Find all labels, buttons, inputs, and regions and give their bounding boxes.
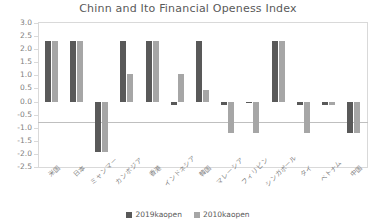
legend-label: 2019kaopen [135, 210, 182, 219]
x-axis-label-cell: インドネシア [165, 169, 190, 205]
y-axis-tick-label: -1.5 [0, 137, 32, 145]
x-axis-label-cell: 韓国 [190, 169, 215, 205]
chart-legend: 2019kaopen2010kaopen [0, 210, 376, 219]
bar[interactable] [329, 102, 335, 105]
bar[interactable] [272, 41, 278, 102]
bar[interactable] [221, 102, 227, 105]
legend-swatch-icon [194, 212, 200, 218]
bar[interactable] [354, 102, 360, 134]
legend-item[interactable]: 2019kaopen [126, 210, 182, 219]
bar[interactable] [52, 41, 58, 102]
bar-group [342, 23, 367, 167]
x-axis-label-cell: ベトナム [317, 169, 342, 205]
y-axis-tick-label: 3.0 [0, 19, 32, 27]
bar[interactable] [322, 102, 328, 105]
x-axis-label-cell: 米国 [39, 169, 64, 205]
bar-group [39, 23, 64, 167]
y-axis-tick-label: -0.5 [0, 111, 32, 119]
y-axis-tick-label: -2.0 [0, 150, 32, 158]
chart-container: Chinn and Ito Financial Openess Index 3.… [0, 0, 376, 222]
bar[interactable] [45, 41, 51, 102]
bar[interactable] [203, 90, 209, 101]
y-axis-tick-label: 1.0 [0, 72, 32, 80]
y-axis-tick-label: -1.0 [0, 124, 32, 132]
bar-group [216, 23, 241, 167]
x-axis-labels: 米国日本ミャンマーカンボジア香港インドネシア韓国マレーシアフィリピンシンガポール… [39, 169, 367, 205]
legend-label: 2010kaopen [203, 210, 250, 219]
bar[interactable] [171, 102, 177, 105]
x-axis-label-cell: シンガポール [266, 169, 291, 205]
legend-swatch-icon [126, 212, 132, 218]
bar[interactable] [70, 41, 76, 102]
legend-item[interactable]: 2010kaopen [194, 210, 250, 219]
y-axis: 3.02.52.01.51.00.50.0-0.5-1.0-1.5-2.0-2.… [0, 22, 38, 168]
bar-group [291, 23, 316, 167]
y-axis-tick-label: 2.0 [0, 45, 32, 53]
bar-group [140, 23, 165, 167]
x-axis-label-cell: 中国 [342, 169, 367, 205]
bar[interactable] [178, 74, 184, 101]
x-axis-label-cell: マレーシア [216, 169, 241, 205]
bar-group [115, 23, 140, 167]
bar[interactable] [297, 102, 303, 105]
y-axis-tick-label: -2.5 [0, 163, 32, 171]
bar-group [89, 23, 114, 167]
x-axis-label-cell: フィリピン [241, 169, 266, 205]
y-axis-tick-label: 0.5 [0, 85, 32, 93]
bar[interactable] [279, 41, 285, 102]
x-axis-label-cell: タイ [291, 169, 316, 205]
bar-group [266, 23, 291, 167]
x-axis-label-cell: カンボジア [115, 169, 140, 205]
bar[interactable] [102, 102, 108, 152]
bar[interactable] [253, 102, 259, 134]
bar[interactable] [146, 41, 152, 102]
bar[interactable] [196, 41, 202, 102]
bar[interactable] [153, 41, 159, 102]
x-axis-label-cell: ミャンマー [89, 169, 114, 205]
chart-title: Chinn and Ito Financial Openess Index [0, 2, 376, 15]
bar[interactable] [304, 102, 310, 134]
x-axis-label-cell: 香港 [140, 169, 165, 205]
y-axis-tick-label: 1.5 [0, 59, 32, 67]
bar[interactable] [246, 102, 252, 103]
bar-group [317, 23, 342, 167]
bar[interactable] [228, 102, 234, 134]
bar[interactable] [95, 102, 101, 152]
bar-group [64, 23, 89, 167]
y-axis-tick-label: 2.5 [0, 32, 32, 40]
x-axis-label-cell: 日本 [64, 169, 89, 205]
bar[interactable] [77, 41, 83, 102]
bar-group [165, 23, 190, 167]
bar-group [241, 23, 266, 167]
bar-group [190, 23, 215, 167]
y-axis-tick-label: 0.0 [0, 98, 32, 106]
bar-series-group [39, 23, 367, 167]
bar[interactable] [347, 102, 353, 134]
bar[interactable] [127, 74, 133, 101]
bar[interactable] [120, 41, 126, 102]
